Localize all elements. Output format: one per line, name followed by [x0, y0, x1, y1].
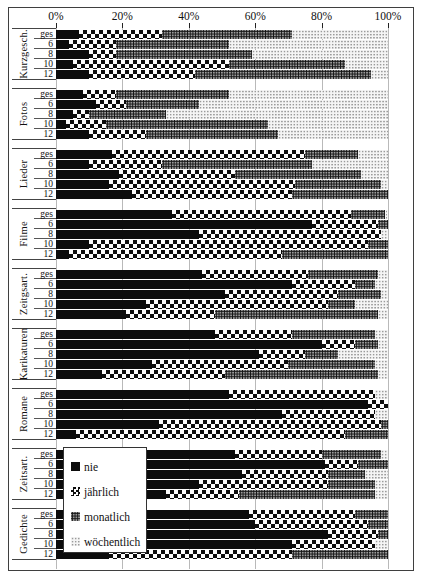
- bar-segment-jährlich: [66, 120, 106, 129]
- bar-segment-wöchentlich: [292, 30, 388, 39]
- group-name-cell: Kurzgesch.: [12, 29, 34, 79]
- row-label: 6: [34, 39, 56, 49]
- axis-tick-label: 20%: [112, 10, 133, 22]
- bar-segment-wöchentlich: [361, 170, 388, 179]
- bar-row-Fotos-12: [56, 130, 388, 139]
- group-label: Zeitsart.: [18, 456, 29, 493]
- row-label: 6: [34, 399, 56, 409]
- bar-segment-wöchentlich: [365, 470, 388, 479]
- group-name-cell: Lieder: [12, 149, 34, 199]
- bar-row-Filme-8: [56, 230, 388, 239]
- bar-row-Lieder-ges: [56, 150, 388, 159]
- row-label: 8: [34, 109, 56, 119]
- bar-row-Filme-ges: [56, 210, 388, 219]
- bar-segment-monatlich: [282, 250, 388, 259]
- bar-segment-nie: [56, 300, 146, 309]
- bar-segment-nie: [56, 240, 89, 249]
- bar-segment-jährlich: [172, 210, 351, 219]
- group-label: Kurzgesch.: [18, 29, 29, 79]
- group-label-block: Zeitgsart.ges681012: [12, 268, 56, 320]
- bar-segment-nie: [56, 50, 89, 59]
- bar-segment-jährlich: [76, 430, 345, 439]
- group-label: Gedichte: [18, 514, 29, 554]
- bar-row-Lieder-6: [56, 160, 388, 169]
- bar-segment-monatlich: [225, 370, 378, 379]
- bar-segment-wöchentlich: [378, 310, 388, 319]
- bar-segment-wöchentlich: [358, 150, 388, 159]
- group-name-cell: Filme: [12, 209, 34, 259]
- bar-row-Zeitgsart.-6: [56, 280, 388, 289]
- row-label: ges: [34, 29, 56, 39]
- bar-segment-monatlich: [215, 310, 378, 319]
- row-label: 8: [34, 469, 56, 479]
- bar-segment-monatlich: [89, 110, 165, 119]
- bar-segment-monatlich: [308, 270, 378, 279]
- bar-segment-wöchentlich: [381, 230, 388, 239]
- bar-segment-wöchentlich: [375, 360, 388, 369]
- bar-row-Zeitgsart.-ges: [56, 270, 388, 279]
- bar-segment-jährlich: [199, 480, 328, 489]
- bar-segment-jährlich: [229, 390, 375, 399]
- row-label: 8: [34, 49, 56, 59]
- row-label: 12: [34, 189, 56, 199]
- group-label: Filme: [18, 221, 29, 247]
- group-label: Zeitgsart.: [18, 273, 29, 315]
- bar-segment-nie: [56, 340, 322, 349]
- bar-segment-jährlich: [96, 100, 126, 109]
- bar-segment-wöchentlich: [375, 540, 388, 549]
- group-label: Romane: [18, 396, 29, 432]
- group-name-cell: Fotos: [12, 89, 34, 139]
- bar-segment-wöchentlich: [375, 490, 388, 499]
- bar-segment-wöchentlich: [355, 300, 388, 309]
- bar-segment-jährlich: [202, 270, 308, 279]
- axis-tick-label: 100%: [375, 10, 402, 22]
- bar-row-Romane-ges: [56, 390, 388, 399]
- bar-segment-jährlich: [79, 30, 162, 39]
- bar-segment-jährlich: [73, 60, 229, 69]
- bar-segment-jährlich: [255, 520, 368, 529]
- bar-row-Filme-10: [56, 240, 388, 249]
- legend-label: jährlich: [84, 486, 119, 498]
- bar-segment-monatlich: [355, 510, 388, 519]
- group-label-block: Kurzgesch.ges681012: [12, 28, 56, 80]
- row-label: ges: [34, 269, 56, 279]
- row-label: 8: [34, 409, 56, 419]
- row-label: 10: [34, 419, 56, 429]
- bar-segment-jährlich: [102, 370, 225, 379]
- row-label: 12: [34, 489, 56, 499]
- bar-segment-wöchentlich: [378, 370, 388, 379]
- group-name-cell: Karikaturen: [12, 329, 34, 379]
- bar-segment-nie: [56, 60, 73, 69]
- row-label: 10: [34, 179, 56, 189]
- bar-segment-monatlich: [106, 120, 269, 129]
- bar-segment-jährlich: [89, 240, 368, 249]
- row-label: 10: [34, 479, 56, 489]
- bar-segment-monatlich: [351, 210, 384, 219]
- bar-row-Kurzgesch.-10: [56, 60, 388, 69]
- row-label: 12: [34, 429, 56, 439]
- bar-segment-nie: [56, 270, 202, 279]
- bar-segment-nie: [56, 190, 132, 199]
- bar-segment-monatlich: [229, 60, 345, 69]
- bar-row-Romane-10: [56, 420, 388, 429]
- bar-row-Fotos-10: [56, 120, 388, 129]
- bar-segment-monatlich: [162, 30, 291, 39]
- bar-segment-monatlich: [345, 430, 388, 439]
- bar-segment-jährlich: [83, 90, 116, 99]
- bar-segment-monatlich: [378, 530, 388, 539]
- bar-segment-jährlich: [215, 330, 291, 339]
- row-label: 6: [34, 99, 56, 109]
- bar-segment-jährlich: [368, 400, 388, 409]
- row-label: 6: [34, 159, 56, 169]
- bar-segment-monatlich: [195, 70, 371, 79]
- bar-segment-monatlich: [381, 420, 388, 429]
- bar-segment-monatlich: [116, 90, 229, 99]
- bar-segment-nie: [56, 130, 89, 139]
- axis-tick-40%: [189, 23, 190, 28]
- bar-segment-jährlich: [73, 110, 90, 119]
- bar-segment-monatlich: [338, 290, 381, 299]
- bar-segment-jährlich: [292, 280, 355, 289]
- bar-segment-wöchentlich: [378, 270, 388, 279]
- bar-segment-monatlich: [292, 190, 388, 199]
- bar-segment-nie: [56, 330, 215, 339]
